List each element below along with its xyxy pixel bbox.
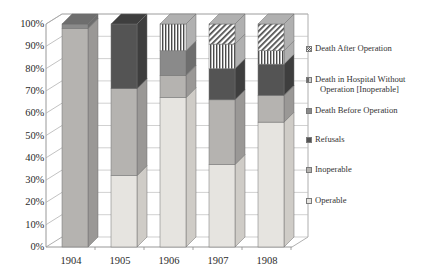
bar-segment-death-in-hospital-without-operation-inoperable [209, 44, 235, 69]
bar-segment-side [186, 88, 196, 247]
y-tick-70: 70% [2, 86, 44, 96]
legend-label-line1: Death After Operation [315, 44, 392, 54]
bar-1905 [111, 14, 147, 247]
bar-segment-inoperable [62, 28, 88, 247]
legend-item-operable[interactable]: Operable [306, 196, 347, 206]
light-gray-swatch [306, 198, 312, 204]
bar-segment-side [88, 18, 98, 247]
legend-label-line1: Refusals [315, 135, 345, 145]
legend-label-line1: Operable [315, 196, 347, 206]
bar-segment-death-after-operation [258, 24, 284, 51]
legend-label-line1: Inoperable [315, 165, 352, 175]
bar-segment-inoperable [111, 89, 137, 176]
bar-1907 [209, 14, 245, 247]
bar-1904 [62, 14, 98, 247]
vertical-stripes-swatch [306, 77, 312, 83]
bar-segment-operable [160, 98, 186, 247]
x-tick-1905: 1905 [98, 255, 142, 266]
legend-item-inoperable[interactable]: Inoperable [306, 165, 352, 175]
medium-gray-swatch [306, 167, 312, 173]
bar-segment-refusals [209, 69, 235, 100]
y-tick-50: 50% [2, 131, 44, 141]
x-tick-1908: 1908 [245, 255, 289, 266]
legend-label-death-after-operation: Death After Operation [315, 44, 392, 54]
legend-item-death-in-hospital-without-operation[interactable]: Death in Hospital Without Operation [Ino… [306, 75, 405, 94]
bar-segment-side [235, 154, 245, 247]
y-tick-30: 30% [2, 175, 44, 185]
bar-1906 [160, 14, 196, 247]
y-tick-60: 60% [2, 108, 44, 118]
bar-1908 [258, 14, 294, 247]
bar-segment-side [284, 112, 294, 247]
legend-label-inoperable: Inoperable [315, 165, 352, 175]
y-tick-90: 90% [2, 41, 44, 51]
bar-segment-death-before-operation [160, 51, 186, 76]
bar-segment-side [137, 14, 147, 89]
bar-segment-inoperable [209, 100, 235, 165]
bar-segment-death-in-hospital-without-operation-inoperable [160, 24, 186, 51]
bar-segment-death-before-operation [62, 24, 88, 28]
bar-segment-side [137, 79, 147, 176]
stacked-column-chart: 100% 90% 80% 70% 60% 50% 40% 30% 20% 10%… [0, 0, 425, 275]
y-tick-20: 20% [2, 197, 44, 207]
legend-item-death-before-operation[interactable]: Death Before Operation [306, 106, 398, 116]
diagonal-stripes-swatch [306, 46, 312, 52]
x-axis: 1904 1905 1906 1907 1908 [46, 252, 308, 272]
x-tick-1907: 1907 [196, 255, 240, 266]
bar-segment-operable [258, 122, 284, 247]
legend-label-death-before-operation: Death Before Operation [315, 106, 398, 116]
y-tick-100: 100% [2, 19, 44, 29]
bar-segment-side [137, 166, 147, 247]
y-tick-40: 40% [2, 153, 44, 163]
bar-segment-inoperable [258, 95, 284, 122]
y-axis: 100% 90% 80% 70% 60% 50% 40% 30% 20% 10%… [0, 0, 44, 275]
bar-segment-operable [209, 164, 235, 247]
dark-gray-swatch [306, 137, 312, 143]
y-tick-0: 0% [2, 242, 44, 252]
y-tick-80: 80% [2, 64, 44, 74]
bar-segment-refusals [258, 64, 284, 95]
chart-3d-frame [0, 0, 425, 275]
legend-label-refusals: Refusals [315, 135, 345, 145]
legend-label-line2: Operation [Inoperable] [315, 85, 405, 95]
legend-label-operable: Operable [315, 196, 347, 206]
bars-layer [62, 14, 294, 247]
bar-segment-death-in-hospital-without-operation-inoperable [258, 51, 284, 64]
legend-label-line1: Death Before Operation [315, 106, 398, 116]
legend-item-death-after-operation[interactable]: Death After Operation [306, 44, 392, 54]
x-tick-1906: 1906 [147, 255, 191, 266]
bar-segment-side [235, 90, 245, 165]
bar-segment-inoperable [160, 75, 186, 97]
medium-dark-gray-swatch [306, 108, 312, 114]
legend-label-death-in-hospital-without-operation: Death in Hospital Without Operation [Ino… [315, 75, 405, 94]
x-tick-1904: 1904 [49, 255, 93, 266]
bar-segment-operable [111, 176, 137, 247]
bar-segment-refusals [111, 24, 137, 89]
y-tick-10: 10% [2, 220, 44, 230]
bar-segment-death-after-operation [209, 24, 235, 44]
legend-item-refusals[interactable]: Refusals [306, 135, 345, 145]
